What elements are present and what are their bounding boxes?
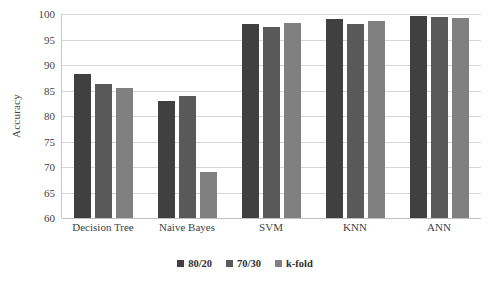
bar xyxy=(200,172,217,218)
bar xyxy=(116,88,133,218)
accuracy-bar-chart: Accuracy 1009590858075706560 Decision Tr… xyxy=(0,0,490,284)
bar-group xyxy=(313,14,397,218)
bar-group xyxy=(397,14,481,218)
y-axis-tick: 70 xyxy=(44,161,55,173)
chart-legend: 80/2070/30k-fold xyxy=(0,258,490,269)
bar xyxy=(158,101,175,218)
y-axis-tick: 75 xyxy=(44,136,55,148)
x-axis-tick: ANN xyxy=(397,221,481,233)
y-axis-tick-labels: 1009590858075706560 xyxy=(28,14,58,218)
bar xyxy=(368,21,385,218)
bars-layer xyxy=(62,14,481,218)
x-axis-tick: Naive Bayes xyxy=(145,221,229,233)
legend-label: 80/20 xyxy=(188,258,212,269)
bar xyxy=(263,27,280,218)
x-axis-tick-labels: Decision TreeNaive BayesSVMKNNANN xyxy=(61,221,481,233)
bar xyxy=(326,19,343,218)
legend-swatch-icon xyxy=(177,260,184,267)
bar-group xyxy=(62,14,146,218)
x-axis-tick: KNN xyxy=(313,221,397,233)
bar xyxy=(347,24,364,218)
y-axis-tick: 100 xyxy=(39,8,56,20)
bar xyxy=(410,16,427,218)
bar xyxy=(95,84,112,218)
legend-swatch-icon xyxy=(226,260,233,267)
y-axis-tick: 95 xyxy=(44,34,55,46)
y-axis-title-label: Accuracy xyxy=(10,94,22,138)
bar-group xyxy=(230,14,314,218)
legend-item: k-fold xyxy=(275,258,313,269)
bar xyxy=(179,96,196,218)
bar-group xyxy=(146,14,230,218)
legend-label: 70/30 xyxy=(237,258,261,269)
y-axis-tick: 65 xyxy=(44,187,55,199)
bar xyxy=(74,74,91,218)
plot-area xyxy=(61,14,481,218)
legend-item: 70/30 xyxy=(226,258,261,269)
bar xyxy=(431,17,448,218)
x-axis-tick: SVM xyxy=(229,221,313,233)
bar xyxy=(242,24,259,218)
y-axis-tick: 90 xyxy=(44,59,55,71)
y-axis-title: Accuracy xyxy=(4,0,28,232)
legend-swatch-icon xyxy=(275,260,282,267)
legend-item: 80/20 xyxy=(177,258,212,269)
legend-label: k-fold xyxy=(286,258,313,269)
x-axis-tick: Decision Tree xyxy=(61,221,145,233)
bar xyxy=(452,18,469,218)
y-axis-tick: 80 xyxy=(44,110,55,122)
gridline xyxy=(62,218,481,219)
y-axis-tick: 85 xyxy=(44,85,55,97)
bar xyxy=(284,23,301,218)
y-axis-tick: 60 xyxy=(44,212,55,224)
